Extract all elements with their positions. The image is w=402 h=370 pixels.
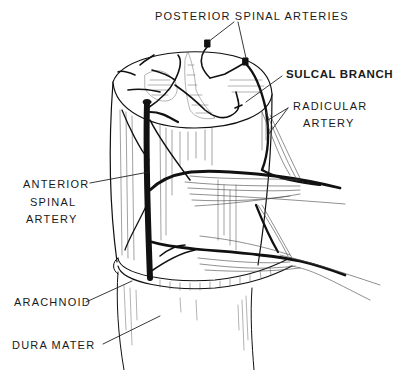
label-sulcal-branch: SULCAL BRANCH <box>286 68 393 80</box>
label-dura-mater: DURA MATER <box>12 339 95 351</box>
label-posterior-spinal-arteries: POSTERIOR SPINAL ARTERIES <box>155 10 349 22</box>
lower-radicular-artery <box>150 205 380 300</box>
dura-mater-sheath <box>117 272 254 370</box>
spinal-cord-diagram: POSTERIOR SPINAL ARTERIES SULCAL BRANCH … <box>0 0 402 370</box>
label-radicular-artery-line1: RADICULAR <box>293 100 367 112</box>
label-radicular-artery-line2: ARTERY <box>303 117 354 129</box>
label-anterior-spinal-artery-line1: ANTERIOR <box>23 178 89 190</box>
label-anterior-spinal-artery-line3: ARTERY <box>26 213 77 225</box>
label-arachnoid: ARACHNOID <box>14 296 91 308</box>
label-anterior-spinal-artery-line2: SPINAL <box>30 196 76 208</box>
